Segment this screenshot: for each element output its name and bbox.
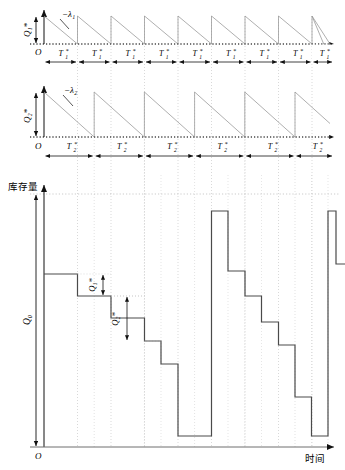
main-q1-annotation: Q₁* — [87, 275, 103, 295]
main-q2-label: Q₂* — [110, 312, 120, 326]
panel-1: Q₁* −λ₁ O T 1 * T 1 * T 1 * — [22, 9, 345, 64]
svg-text:T: T — [92, 49, 97, 58]
inventory-diagram-svg: Q₁* −λ₁ O T 1 * T 1 * T 1 * — [0, 0, 345, 470]
panel2-amplitude-label: Q₂* — [22, 108, 32, 123]
svg-text:*: * — [267, 48, 270, 54]
svg-text:T: T — [259, 49, 264, 58]
svg-text:1: 1 — [233, 54, 236, 60]
panel2-slope-leader — [63, 95, 73, 106]
main-y-axis-label: 库存量 — [8, 181, 38, 192]
svg-text:1: 1 — [166, 54, 169, 60]
svg-text:*: * — [300, 48, 303, 54]
svg-text:1: 1 — [65, 54, 68, 60]
panel1-slope-label: −λ₁ — [62, 9, 75, 19]
svg-text:1: 1 — [266, 54, 269, 60]
panel1-period-marks: T 1 * T 1 * T 1 * T 1 * — [46, 48, 333, 63]
svg-text:*: * — [233, 48, 236, 54]
svg-text:T: T — [117, 142, 122, 151]
svg-text:1: 1 — [327, 54, 330, 60]
figure-canvas: Q₁* −λ₁ O T 1 * T 1 * T 1 * — [0, 0, 345, 470]
main-q1-label: Q₁* — [87, 278, 97, 292]
svg-text:*: * — [320, 141, 323, 147]
panel1-sawtooth — [44, 16, 330, 59]
main-q0-label: Q₀ — [22, 315, 32, 325]
svg-text:2: 2 — [74, 147, 77, 153]
svg-text:*: * — [174, 141, 177, 147]
svg-text:T: T — [167, 142, 172, 151]
svg-text:T: T — [192, 49, 197, 58]
panel2-slope-label: −λ₂ — [64, 85, 77, 95]
svg-text:1: 1 — [132, 54, 135, 60]
svg-text:*: * — [99, 48, 102, 54]
svg-text:T: T — [159, 49, 164, 58]
svg-text:*: * — [74, 141, 77, 147]
svg-text:1: 1 — [99, 54, 102, 60]
svg-text:*: * — [225, 141, 228, 147]
svg-text:2: 2 — [124, 147, 127, 153]
svg-text:2: 2 — [320, 147, 323, 153]
svg-text:2: 2 — [174, 147, 177, 153]
svg-text:T: T — [67, 142, 72, 151]
svg-text:T: T — [320, 49, 325, 58]
svg-text:T: T — [58, 49, 63, 58]
svg-text:*: * — [66, 48, 69, 54]
svg-text:T: T — [293, 49, 298, 58]
svg-text:*: * — [275, 141, 278, 147]
panel2-period-marks: T 2 * T 2 * T 2 * T 2 * — [46, 141, 333, 157]
panel1-origin-label: O — [35, 47, 42, 57]
main-origin-label: O — [35, 451, 42, 461]
svg-text:T: T — [226, 49, 231, 58]
panel1-slope-leader — [60, 19, 69, 29]
svg-text:1: 1 — [300, 54, 303, 60]
svg-text:T: T — [268, 142, 273, 151]
panel2-sawtooth — [44, 92, 330, 137]
svg-text:*: * — [327, 48, 330, 54]
svg-text:T: T — [313, 142, 318, 151]
svg-text:T: T — [125, 49, 130, 58]
panel2-origin-label: O — [35, 141, 42, 151]
panel1-amplitude-label: Q₁* — [22, 22, 32, 37]
vertical-gridlines-group — [78, 16, 313, 447]
svg-text:2: 2 — [224, 147, 227, 153]
svg-text:*: * — [166, 48, 169, 54]
svg-text:*: * — [124, 141, 127, 147]
svg-text:2: 2 — [274, 147, 277, 153]
main-chart: 库存量 时间 O Q₀ Q₁* Q₂* — [8, 181, 345, 464]
svg-text:1: 1 — [199, 54, 202, 60]
main-x-axis-label: 时间 — [305, 453, 325, 464]
svg-text:*: * — [200, 48, 203, 54]
svg-text:T: T — [217, 142, 222, 151]
svg-text:*: * — [133, 48, 136, 54]
